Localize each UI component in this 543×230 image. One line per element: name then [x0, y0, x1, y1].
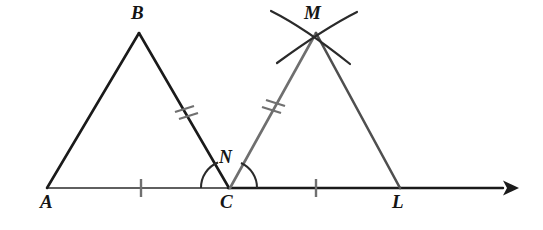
- segment-AB-line: [47, 33, 139, 188]
- baseline-arrowhead-icon: [503, 181, 519, 196]
- vertex-label-A: A: [40, 192, 53, 211]
- geometry-figure-canvas: A B C L M N: [0, 0, 543, 230]
- tick-side-CM: [262, 100, 285, 113]
- baseline-ray-group: [47, 181, 519, 196]
- geometry-diagram-svg: [0, 0, 543, 230]
- triangle-MCL-group: [230, 33, 400, 188]
- vertex-label-N: N: [219, 148, 232, 166]
- vertex-label-L: L: [392, 192, 404, 211]
- vertex-label-B: B: [131, 3, 144, 22]
- vertex-label-C: C: [220, 192, 233, 211]
- segment-ML-line: [316, 33, 400, 188]
- triangle-ABC-group: [47, 33, 229, 188]
- vertex-label-M: M: [304, 3, 321, 22]
- angle-arc-MCL: [241, 163, 257, 188]
